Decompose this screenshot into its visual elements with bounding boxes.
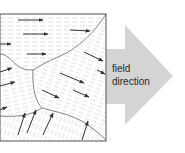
field-direction-arrow (106, 25, 173, 125)
field-label: field (112, 63, 130, 75)
direction-label: direction (112, 76, 150, 88)
magnetic-domains-diagram (0, 0, 185, 153)
